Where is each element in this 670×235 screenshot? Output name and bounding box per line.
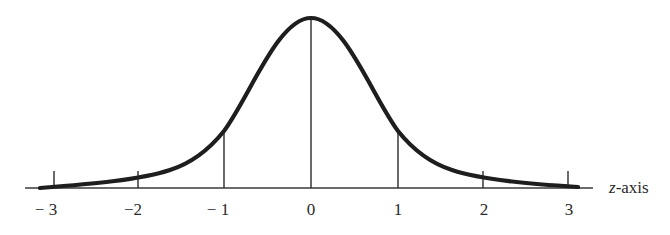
bell-curve bbox=[40, 18, 578, 188]
x-axis-label: z-axis bbox=[608, 178, 649, 197]
tick-label-plus-2: 2 bbox=[480, 200, 489, 219]
tick-label-plus-1: 1 bbox=[394, 200, 403, 219]
tick-label-minus-1: − 1 bbox=[207, 200, 229, 219]
tick-label-minus-3: − 3 bbox=[35, 200, 57, 219]
tick-label-minus-2: −2 bbox=[124, 200, 142, 219]
normal-distribution-chart: − 3 −2 − 1 0 1 2 3 z-axis bbox=[0, 0, 670, 235]
tick-label-plus-3: 3 bbox=[565, 200, 574, 219]
x-axis-label-suffix: -axis bbox=[616, 178, 649, 197]
tick-label-0: 0 bbox=[307, 200, 316, 219]
